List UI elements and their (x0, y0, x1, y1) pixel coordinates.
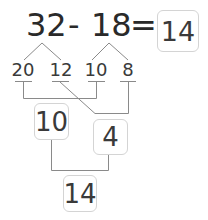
tens-difference-box[interactable]: 10 (34, 103, 69, 140)
subtrahend-part-ones: 8 (116, 60, 140, 80)
minuend-part-tens: 20 (11, 60, 35, 80)
final-result-box[interactable]: 14 (63, 175, 97, 212)
subtrahend: 18 (91, 9, 132, 41)
minus-operator: - (68, 9, 80, 41)
minuend: 32 (26, 9, 67, 41)
minuend-part-ones: 12 (49, 60, 73, 80)
ones-difference-box[interactable]: 4 (93, 119, 128, 155)
subtrahend-part-tens: 10 (84, 60, 108, 80)
equals-sign: = (130, 9, 157, 41)
answer-box[interactable]: 14 (157, 10, 199, 52)
